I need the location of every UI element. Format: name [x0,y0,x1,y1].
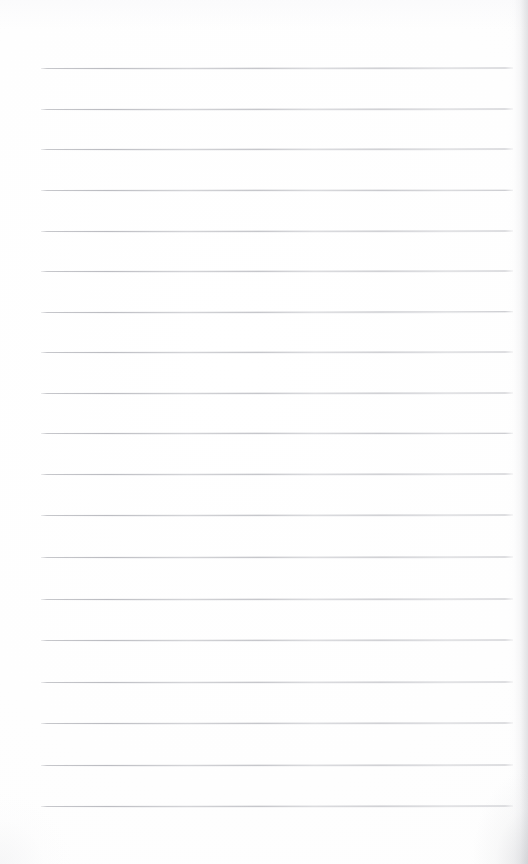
lined-paper-page [0,0,528,864]
writing-area[interactable] [41,28,513,828]
